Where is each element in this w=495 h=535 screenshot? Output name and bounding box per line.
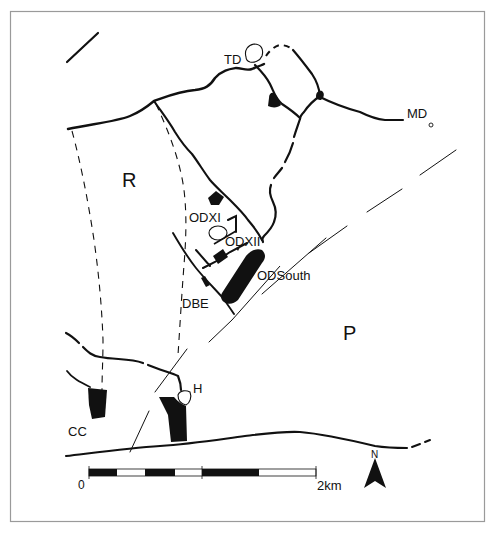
region-label-r: R xyxy=(122,169,136,191)
isolated-track xyxy=(67,33,98,62)
site-label-cc: CC xyxy=(68,424,87,439)
road-td-south xyxy=(255,65,300,118)
td-enclosure xyxy=(245,44,262,62)
site-block-cc xyxy=(88,388,107,419)
dashed-track-td-ne xyxy=(266,45,293,56)
scale-end-label: 2km xyxy=(317,478,342,493)
scale-start-label: 0 xyxy=(78,478,85,492)
region-label-p: P xyxy=(343,322,356,344)
road-to-md xyxy=(320,97,403,120)
road-cc xyxy=(67,371,90,387)
road-to-h xyxy=(66,333,181,390)
site-label-td: TD xyxy=(224,52,241,67)
scale-bar xyxy=(89,466,316,479)
southern-road xyxy=(66,432,407,456)
site-label-md: MD xyxy=(407,106,427,121)
site-label-h: H xyxy=(193,381,202,396)
site-label-odxii: ODXII xyxy=(225,234,260,249)
road-ne-loop xyxy=(293,50,320,119)
north-arrow-icon xyxy=(364,458,386,488)
site-map: R P TD MD ODXI ODXII ODSouth DBE H CC 0 … xyxy=(0,0,495,535)
md-marker xyxy=(429,123,433,127)
road-south-broken xyxy=(262,119,300,242)
site-label-odsouth: ODSouth xyxy=(257,268,310,283)
site-label-odxi: ODXI xyxy=(189,210,221,225)
north-label: N xyxy=(371,449,378,460)
site-label-dbe: DBE xyxy=(182,296,209,311)
southern-road-dashed xyxy=(412,440,430,447)
